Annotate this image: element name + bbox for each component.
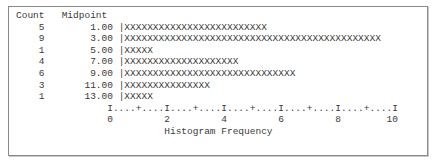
row-bar: |XXXXXXXXXXXXXXXXXXXXXXXXXXXXXX (119, 68, 296, 79)
axis-ruler-row: I....+....I....+....I....+....I....+....… (16, 103, 398, 115)
row-bar: |XXXXX (119, 91, 153, 102)
x-axis-label: Histogram Frequency (164, 126, 272, 137)
row-count: 1 (39, 45, 45, 56)
row-count: 1 (39, 91, 45, 102)
row-midpoint: 5.00 (90, 45, 113, 56)
histogram-row: 5 1.00 |XXXXXXXXXXXXXXXXXXXXXXXXX (16, 22, 398, 34)
row-midpoint: 11.00 (84, 80, 113, 91)
row-midpoint: 13.00 (84, 91, 113, 102)
histogram-text-output: Count Midpoint 5 1.00 |XXXXXXXXXXXXXXXXX… (16, 10, 398, 138)
row-bar: |XXXXXXXXXXXXXXX (119, 80, 210, 91)
row-count: 6 (39, 68, 45, 79)
row-bar: |XXXXX (119, 45, 153, 56)
row-bar: |XXXXXXXXXXXXXXXXXXXX (119, 56, 239, 67)
row-midpoint: 1.00 (90, 22, 113, 33)
histogram-row: 4 7.00 |XXXXXXXXXXXXXXXXXXXX (16, 56, 398, 68)
axis-ruler: I....+....I....+....I....+....I....+....… (107, 103, 398, 114)
axis-tick-labels: 0 2 4 6 8 10 (107, 114, 398, 125)
row-count: 5 (39, 22, 45, 33)
row-count: 3 (39, 80, 45, 91)
row-bar: |XXXXXXXXXXXXXXXXXXXXXXXXXXXXXXXXXXXXXXX… (119, 33, 381, 44)
row-count: 4 (39, 56, 45, 67)
row-bar: |XXXXXXXXXXXXXXXXXXXXXXXXX (119, 22, 267, 33)
histogram-row: 6 9.00 |XXXXXXXXXXXXXXXXXXXXXXXXXXXXXX (16, 68, 398, 80)
histogram-row: 3 11.00 |XXXXXXXXXXXXXXX (16, 80, 398, 92)
row-midpoint: 3.00 (90, 33, 113, 44)
row-midpoint: 9.00 (90, 68, 113, 79)
histogram-row: 1 13.00 |XXXXX (16, 91, 398, 103)
axis-ticks-row: 0 2 4 6 8 10 (16, 114, 398, 126)
header-row: Count Midpoint (16, 10, 398, 22)
histogram-row: 1 5.00 |XXXXX (16, 45, 398, 57)
histogram-row: 9 3.00 |XXXXXXXXXXXXXXXXXXXXXXXXXXXXXXXX… (16, 33, 398, 45)
row-count: 9 (39, 33, 45, 44)
row-midpoint: 7.00 (90, 56, 113, 67)
count-header: Count (16, 10, 45, 21)
axis-label-row: Histogram Frequency (16, 126, 398, 138)
midpoint-header: Midpoint (62, 10, 108, 21)
